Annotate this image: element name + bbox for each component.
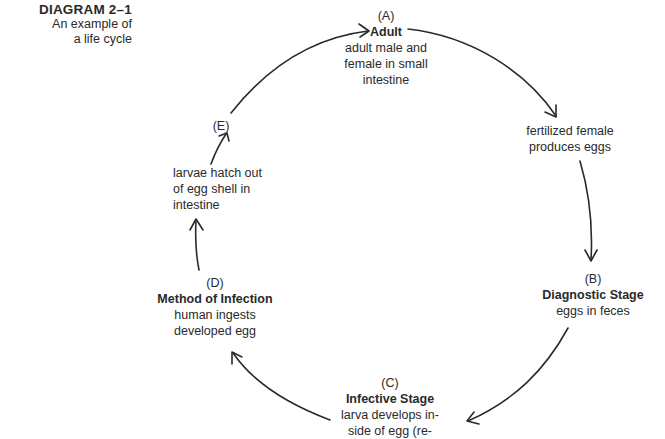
- node-a-desc-line1: adult male and: [322, 40, 450, 56]
- arrow-d-to-hatch: [190, 219, 203, 270]
- node-e: (E): [206, 118, 236, 134]
- node-b-stage: Diagnostic Stage: [518, 287, 665, 303]
- node-b-diagnostic-stage: (B) Diagnostic Stage eggs in feces: [518, 271, 665, 319]
- fertilized-desc-line2: produces eggs: [506, 139, 634, 155]
- node-larvae-hatch: larvae hatch out of egg shell in intesti…: [173, 165, 293, 213]
- hatch-desc-line3: intestine: [173, 197, 293, 213]
- node-fertilized-female: fertilized female produces eggs: [506, 123, 634, 155]
- node-a-desc-line3: intestine: [322, 72, 450, 88]
- arrow-fertilized-to-b: [580, 161, 597, 261]
- node-d-stage: Method of Infection: [140, 291, 290, 307]
- arrow-b-to-c: [467, 328, 568, 424]
- node-a-desc-line2: female in small: [322, 56, 450, 72]
- hatch-desc-line2: of egg shell in: [173, 181, 293, 197]
- node-d-letter: (D): [140, 275, 290, 291]
- arrow-hatch-to-e: [211, 133, 229, 164]
- fertilized-desc-line1: fertilized female: [506, 123, 634, 139]
- node-b-letter: (B): [518, 271, 665, 287]
- node-c-desc-line2: side of egg (re-: [322, 423, 458, 439]
- node-c-letter: (C): [322, 375, 458, 391]
- node-c-desc-line1: larva develops in-: [322, 407, 458, 423]
- node-a-adult: (A) Adult adult male and female in small…: [322, 8, 450, 88]
- node-d-desc-line2: developed egg: [140, 323, 290, 339]
- node-b-desc-line1: eggs in feces: [518, 303, 665, 319]
- node-d-desc-line1: human ingests: [140, 307, 290, 323]
- node-c-stage: Infective Stage: [322, 391, 458, 407]
- node-d-method-of-infection: (D) Method of Infection human ingests de…: [140, 275, 290, 339]
- node-c-infective-stage: (C) Infective Stage larva develops in- s…: [322, 375, 458, 439]
- arrow-c-to-d: [232, 352, 330, 420]
- hatch-desc-line1: larvae hatch out: [173, 165, 293, 181]
- node-e-letter: (E): [206, 118, 236, 134]
- node-a-stage: Adult: [322, 24, 450, 40]
- node-a-letter: (A): [322, 8, 450, 24]
